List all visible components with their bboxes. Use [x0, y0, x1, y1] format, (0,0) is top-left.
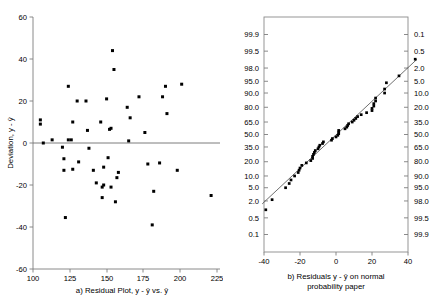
data-point: [143, 131, 146, 134]
panel-a-y-axis-title: Deviation, y - ŷ: [6, 117, 15, 169]
panel-b-left-tick-label-0.1: 0.1: [248, 230, 259, 239]
data-point: [102, 184, 105, 187]
panel-b-right-tick-label-95.0: 95.0: [414, 183, 429, 192]
panel-a-xtick-225: 225: [211, 274, 223, 283]
panel-a-xtick-100: 100: [27, 274, 40, 283]
panel-b-right-tick-label-80.0: 80.0: [414, 157, 429, 166]
data-point: [374, 97, 377, 100]
panel-a-ytick-20: 20: [19, 97, 27, 106]
data-point: [383, 92, 386, 95]
panel-b-caption-line1-prefix: b) Residuals y -: [287, 272, 343, 281]
panel-b-caption-line1-suffix: on normal: [348, 272, 385, 281]
panel-a-xtick-175: 175: [137, 274, 150, 283]
data-point: [87, 147, 90, 150]
data-point: [64, 216, 67, 219]
data-point: [365, 111, 368, 114]
data-point: [51, 138, 54, 141]
data-point: [86, 129, 89, 132]
data-point: [165, 112, 168, 115]
panel-b-left-tick-label-20.0: 20.0: [244, 157, 259, 166]
data-point: [61, 146, 64, 149]
data-point: [264, 208, 267, 211]
panel-b-right-tick-label-35.0: 35.0: [414, 118, 429, 127]
panel-b-left-tick-label-98.0: 98.0: [244, 64, 259, 73]
data-point: [176, 169, 179, 172]
panel-b-left-tick-label-80.0: 80.0: [244, 103, 259, 112]
panel-a-xtick-125: 125: [64, 274, 77, 283]
panel-b-left-ticks: [264, 35, 268, 235]
panel-b-left-tick-label-5.0: 5.0: [248, 183, 259, 192]
panel-b-right-tick-label-50.0: 50.0: [414, 130, 429, 139]
panel-a-x-ticks: [33, 269, 217, 273]
data-point: [126, 106, 129, 109]
data-point: [114, 200, 117, 203]
data-point: [297, 171, 300, 174]
data-point: [398, 75, 401, 78]
data-point: [164, 85, 167, 88]
panel-b-left-tick-label-95.0: 95.0: [244, 77, 259, 86]
data-point: [105, 97, 108, 100]
data-point: [337, 129, 340, 132]
panel-b-right-tick-label-65.0: 65.0: [414, 143, 429, 152]
data-point: [84, 100, 87, 103]
panel-b-right-tick-label-0.5: 0.5: [414, 47, 425, 56]
panel-a-ytick-60: 60: [19, 13, 27, 22]
panel-b-xtick-20: 20: [368, 257, 376, 266]
data-point: [290, 179, 293, 182]
panel-b-left-tick-label-0.5: 0.5: [248, 214, 259, 223]
panel-b-right-tick-label-99.9: 99.9: [414, 230, 429, 239]
data-point: [360, 113, 363, 116]
data-point: [111, 49, 114, 52]
data-point: [151, 223, 154, 226]
panel-b-xtick-neg20: -20: [295, 257, 306, 266]
panel-a-caption-prefix: a) Residual Plot, y -: [76, 286, 146, 295]
data-point: [95, 181, 98, 184]
data-point: [62, 169, 65, 172]
panel-b-right-tick-label-20.0: 20.0: [414, 103, 429, 112]
data-point: [70, 138, 73, 141]
panel-a-ytick-0: 0: [23, 139, 27, 148]
data-point: [299, 167, 302, 170]
data-point: [210, 194, 213, 197]
panel-a-ytick-40: 40: [19, 55, 27, 64]
data-point: [288, 182, 291, 185]
data-point: [414, 58, 417, 61]
data-point: [372, 105, 375, 108]
panel-b-xtick-40: 40: [404, 257, 412, 266]
data-point: [107, 156, 110, 159]
panel-a-svg: 60 40 20 0 -20 -40 -60 100 125 150 175 2…: [0, 0, 223, 298]
panel-b-right-tick-label-98.0: 98.0: [414, 197, 429, 206]
svg-text:Deviation, y - ŷ: Deviation, y - ŷ: [6, 117, 15, 169]
data-point: [314, 149, 317, 152]
panel-b-left-tick-label-65.0: 65.0: [244, 118, 259, 127]
data-point: [347, 122, 350, 125]
data-point: [71, 121, 74, 124]
panel-a-residual-plot: 60 40 20 0 -20 -40 -60 100 125 150 175 2…: [0, 0, 223, 298]
panel-b-left-tick-label-10.0: 10.0: [244, 172, 259, 181]
panel-b-caption-line2: probability paper: [307, 282, 365, 291]
panel-b-caption-line1: b) Residuals y - ŷ on normal: [287, 272, 384, 281]
panel-a-ytick-neg60: -60: [16, 265, 27, 274]
data-point: [117, 171, 120, 174]
data-point: [158, 161, 161, 164]
panel-a-xtick-150: 150: [101, 274, 114, 283]
data-point: [180, 83, 183, 86]
data-point: [102, 166, 105, 169]
data-point: [92, 169, 95, 172]
data-point: [331, 137, 334, 140]
panel-b-left-tick-label-99.5: 99.5: [244, 47, 259, 56]
data-point: [137, 95, 140, 98]
data-point: [371, 107, 374, 110]
data-point: [161, 95, 164, 98]
panel-b-right-tick-label-0.1: 0.1: [414, 30, 425, 39]
panel-b-right-tick-label-2.0: 2.0: [414, 64, 425, 73]
panel-b-right-tick-label-10.0: 10.0: [414, 89, 429, 98]
panel-b-right-tick-label-90.0: 90.0: [414, 172, 429, 181]
data-point: [383, 88, 386, 91]
data-point: [374, 100, 377, 103]
data-point: [67, 85, 70, 88]
data-point: [271, 198, 274, 201]
data-point: [77, 160, 80, 163]
panel-a-ytick-neg40: -40: [16, 223, 27, 232]
panel-b-x-ticks: [264, 252, 408, 256]
